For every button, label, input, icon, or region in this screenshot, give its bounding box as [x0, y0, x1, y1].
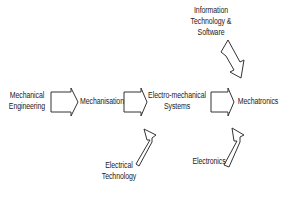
- node-electro-mechanical-systems: Electro-mechanical Systems: [147, 90, 208, 112]
- node-label-line: Software: [184, 27, 238, 38]
- node-electronics: Electronics: [189, 156, 230, 167]
- node-information-technology-software: Information Technology & Software: [184, 5, 238, 38]
- node-label-line: Engineering: [7, 101, 48, 112]
- node-label-line: Technology: [97, 171, 141, 182]
- node-mechatronics: Mechatronics: [236, 96, 280, 107]
- node-label-line: Information: [184, 5, 238, 16]
- arrow-it-to-mechatronics: [221, 40, 244, 78]
- node-label-line: Mechanisation: [79, 96, 125, 107]
- node-mechanisation: Mechanisation: [79, 96, 125, 107]
- node-label-line: Electro-mechanical: [147, 90, 208, 101]
- node-label-line: Systems: [147, 101, 208, 112]
- node-label-line: Electronics: [189, 156, 230, 167]
- arrow-mechanisation-to-electromech: [124, 88, 147, 116]
- node-label-line: Mechatronics: [236, 96, 280, 107]
- node-label-line: Mechanical: [7, 90, 48, 101]
- node-label-line: Electrical: [97, 160, 141, 171]
- arrow-electromech-to-mechatronics: [211, 88, 234, 116]
- node-mechanical-engineering: Mechanical Engineering: [7, 90, 48, 112]
- node-label-line: Technology &: [184, 16, 238, 27]
- node-electrical-technology: Electrical Technology: [97, 160, 141, 182]
- arrow-mech-eng-to-mechanisation: [51, 88, 78, 116]
